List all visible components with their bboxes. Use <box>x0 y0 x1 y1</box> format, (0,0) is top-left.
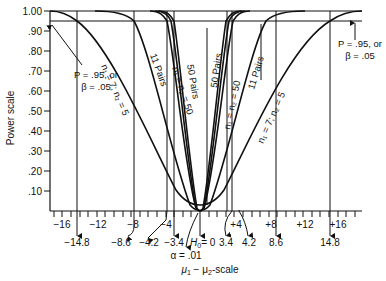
y-tick-label: .10 <box>28 186 42 197</box>
svg-text:β = .05: β = .05 <box>345 50 375 61</box>
y-tick-label: 1.00 <box>23 6 43 17</box>
svg-text:14.8: 14.8 <box>320 237 340 248</box>
y-tick-label: .80 <box>28 46 42 57</box>
svg-text:−3.4: −3.4 <box>164 237 184 248</box>
critical-value-labels: −14.8 −8.6 −4.2 −3.4 3.4 4.2 8.6 14.8 H0… <box>64 237 340 261</box>
alpha-label: α = .01 <box>170 250 202 261</box>
svg-text:−4.2: −4.2 <box>139 237 159 248</box>
x-tick-label: −12 <box>90 219 107 230</box>
svg-text:8.6: 8.6 <box>269 237 283 248</box>
x-tick-label: +8 <box>265 219 277 230</box>
svg-text:P = .95, or: P = .95, or <box>74 69 118 80</box>
h0-label: H0= 0 <box>190 237 216 249</box>
y-tick-label: .40 <box>28 126 42 137</box>
y-tick-label: .30 <box>28 146 42 157</box>
svg-text:3.4: 3.4 <box>219 237 233 248</box>
x-axis-title: μ1 − μ2-scale <box>180 264 239 276</box>
x-tick-label: +16 <box>330 219 347 230</box>
y-tick-label: .90 <box>28 26 42 37</box>
y-tick-label: .20 <box>28 166 42 177</box>
power-curves <box>50 11 362 211</box>
svg-text:−8.6: −8.6 <box>111 237 131 248</box>
x-tick-label: −16 <box>54 219 71 230</box>
curve-n7-n5 <box>50 11 362 205</box>
y-tick-label: .60 <box>28 86 42 97</box>
y-axis-title: Power scale <box>5 90 16 145</box>
svg-text:P = .95, or: P = .95, or <box>338 38 382 49</box>
svg-text:β = .05: β = .05 <box>81 81 111 92</box>
y-tick-label: .50 <box>28 106 42 117</box>
x-axis: −16 −12 −8 −4 +4 +8 +12 +16 <box>50 211 362 230</box>
y-axis: 1.00 .90 .80 .70 .60 .50 .40 .30 .20 .10… <box>5 6 50 211</box>
svg-text:4.2: 4.2 <box>242 237 256 248</box>
x-tick-label: +12 <box>297 219 314 230</box>
y-tick-label: .70 <box>28 66 42 77</box>
x-tick-label: +4 <box>230 219 242 230</box>
annotation-right: P = .95, or β = .05 <box>338 23 382 61</box>
critical-value-lines <box>77 11 330 247</box>
svg-text:−14.8: −14.8 <box>64 237 90 248</box>
power-curve-chart: 1.00 .90 .80 .70 .60 .50 .40 .30 .20 .10… <box>0 0 386 281</box>
x-tick-label: −8 <box>127 219 139 230</box>
curve-label-50-right: 50 Pairs <box>208 52 224 88</box>
